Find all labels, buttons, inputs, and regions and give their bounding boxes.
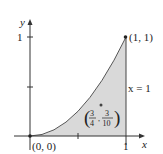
origin-label: (0, 0) (32, 140, 56, 153)
centroid-y-denominator: 10 (103, 119, 111, 128)
centroid-x-numerator: 3 (90, 109, 94, 118)
y-axis-label: y (19, 16, 25, 28)
x-axis-label: x (141, 138, 147, 150)
centroid-point (100, 104, 103, 107)
centroid-separator: , (98, 114, 100, 123)
vertical-line-label: x = 1 (128, 82, 151, 94)
centroid-y-numerator: 3 (105, 109, 109, 118)
shaded-region (30, 37, 126, 136)
centroid-x-denominator: 4 (90, 119, 94, 128)
origin-point (28, 134, 32, 138)
x-tick-label: 1 (123, 140, 129, 152)
top-point-label: (1, 1) (129, 31, 153, 44)
centroid-diagram: y x 1 1 (0, 0) (1, 1) x = 1 ( 3 4 , 3 10… (0, 0, 163, 154)
top-point (124, 35, 128, 39)
y-axis-arrow-icon (28, 19, 33, 25)
right-paren: ) (114, 107, 120, 129)
y-tick-label: 1 (17, 31, 23, 43)
